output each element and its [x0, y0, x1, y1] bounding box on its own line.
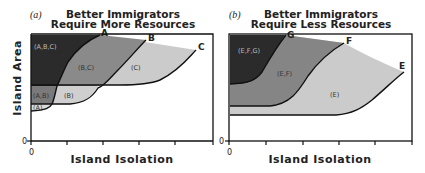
region-label-ab: (A,B) — [33, 92, 49, 100]
curve-label-c: C — [198, 42, 205, 52]
curve-label-e: E — [399, 61, 405, 71]
region-label-c: (C) — [131, 64, 141, 72]
region-label-e: (E) — [330, 91, 339, 99]
curve-label-f: F — [346, 36, 352, 46]
region-label-a: (A) — [33, 104, 43, 112]
panel-a-x-origin: 0 — [29, 148, 34, 157]
curve-label-a: A — [101, 28, 108, 38]
curve-label-g: G — [287, 30, 294, 40]
panel-a-label: (a) — [30, 9, 42, 21]
region-label-abc: (A,B,C) — [34, 43, 57, 51]
panel-a-title-line2: Require More Resources — [51, 18, 195, 30]
panel-b-x-axis-label: Island Isolation — [268, 153, 371, 166]
region-label-b: (B) — [64, 92, 74, 100]
panel-a: (a) Better Immigrators Require More Reso… — [11, 8, 213, 166]
panel-b-title-line2: Require Less Resources — [251, 18, 392, 30]
figure: (a) Better Immigrators Require More Reso… — [0, 0, 425, 173]
panel-b: (b) Better Immigrators Require Less Reso… — [219, 8, 412, 166]
panel-b-label: (b) — [229, 9, 241, 21]
panel-a-y-axis-label: Island Area — [11, 40, 24, 116]
region-label-efg: (E,F,G) — [238, 47, 260, 55]
panel-b-y-origin: 0 — [219, 137, 224, 146]
panel-a-x-axis-label: Island Isolation — [70, 153, 173, 166]
panel-a-y-origin: 0 — [22, 137, 27, 146]
region-label-ef: (E,F) — [277, 70, 292, 78]
panel-b-x-origin: 0 — [227, 148, 232, 157]
region-label-bc: (B,C) — [78, 64, 94, 72]
